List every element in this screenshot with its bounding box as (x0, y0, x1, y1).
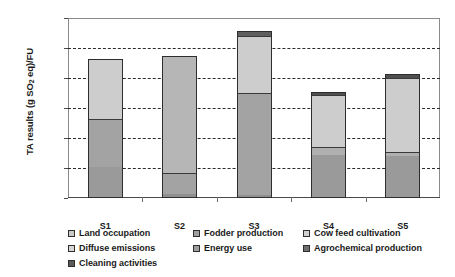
legend-swatch-icon (68, 245, 75, 252)
chart-figure: TA results (g SO2 eq)/FU 0.020.040.060.0… (0, 0, 455, 277)
legend-item[interactable]: Cow feed cultivation (303, 228, 401, 238)
y-tick-mark (64, 168, 68, 169)
bar-segment[interactable] (88, 167, 123, 199)
legend-item[interactable]: Fodder production (193, 228, 283, 238)
y-tick-mark (64, 138, 68, 139)
legend-label: Land occupation (79, 228, 150, 238)
x-tick-mark (217, 197, 218, 202)
y-axis-title-pre: TA results (g SO (24, 83, 35, 155)
legend-item[interactable]: Energy use (193, 243, 252, 253)
bar-segment[interactable] (88, 59, 123, 119)
legend-item[interactable]: Cleaning activities (68, 258, 157, 268)
legend-swatch-icon (68, 260, 75, 267)
bar-segment[interactable] (162, 194, 197, 199)
plot-area: TA results (g SO2 eq)/FU 0.020.040.060.0… (0, 0, 455, 222)
y-axis-title: TA results (g SO2 eq)/FU (24, 7, 35, 197)
chart-legend: Land occupationFodder productionCow feed… (0, 226, 455, 277)
bar-s3[interactable] (237, 31, 272, 198)
bar-segment[interactable] (311, 147, 346, 155)
legend-label: Cleaning activities (79, 258, 157, 268)
axis-area: 0.020.040.060.080.0100.0120.0 S1S2S3S4S5 (68, 18, 440, 198)
bar-s4[interactable] (311, 92, 346, 199)
y-axis-title-post: eq)/FU (24, 48, 35, 80)
y-tick-mark (64, 78, 68, 79)
y-tick-mark (64, 18, 68, 19)
bar-segment[interactable] (237, 195, 272, 198)
bar-segment[interactable] (385, 78, 420, 152)
bar-segment[interactable] (162, 173, 197, 194)
bar-segment[interactable] (385, 156, 420, 198)
bar-s2[interactable] (162, 56, 197, 199)
legend-item[interactable]: Land occupation (68, 228, 150, 238)
legend-item[interactable]: Agrochemical production (303, 243, 422, 253)
legend-swatch-icon (193, 245, 200, 252)
bar-s5[interactable] (385, 74, 420, 199)
legend-label: Fodder production (204, 228, 283, 238)
legend-label: Diffuse emissions (79, 243, 155, 253)
bar-segment[interactable] (311, 155, 346, 199)
y-axis-title-subscript: 2 (28, 79, 35, 83)
x-tick-mark (142, 197, 143, 202)
legend-swatch-icon (68, 230, 75, 237)
legend-label: Cow feed cultivation (314, 228, 401, 238)
legend-label: Agrochemical production (314, 243, 422, 253)
legend-swatch-icon (303, 245, 310, 252)
plot-frame-top (68, 18, 440, 19)
y-tick-mark (64, 48, 68, 49)
legend-item[interactable]: Diffuse emissions (68, 243, 155, 253)
bar-segment[interactable] (162, 56, 197, 173)
bar-segment[interactable] (237, 93, 272, 195)
bar-segment[interactable] (88, 119, 123, 167)
bar-segment[interactable] (237, 36, 272, 93)
y-tick-mark (64, 198, 68, 199)
x-tick-mark (291, 197, 292, 202)
x-tick-mark (366, 197, 367, 202)
y-tick-mark (64, 108, 68, 109)
legend-label: Energy use (204, 243, 252, 253)
bar-segment[interactable] (311, 95, 346, 148)
legend-swatch-icon (193, 230, 200, 237)
bar-s1[interactable] (88, 59, 123, 199)
legend-swatch-icon (303, 230, 310, 237)
